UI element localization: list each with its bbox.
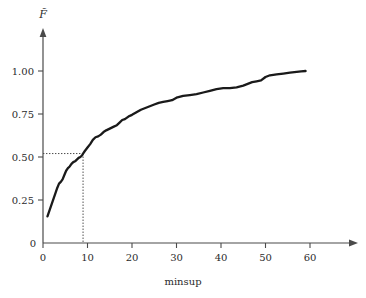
xtick-label-40: 40: [215, 252, 228, 263]
xtick-label-10: 10: [81, 252, 94, 263]
y-axis: [40, 28, 47, 243]
xtick-label-60: 60: [304, 252, 317, 263]
xtick-label-20: 20: [126, 252, 139, 263]
x-axis: [43, 240, 358, 247]
xtick-label-50: 50: [259, 252, 272, 263]
ytick-label-0-50: 0.50: [12, 152, 34, 163]
median-guideline: [43, 154, 83, 243]
cdf-curve: [47, 71, 305, 216]
xtick-label-0: 0: [40, 252, 46, 263]
ytick-label-0-75: 0.75: [12, 109, 34, 120]
xtick-label-30: 30: [170, 252, 183, 263]
y-axis-ticks: [38, 71, 43, 200]
x-axis-ticks: [43, 243, 310, 248]
ytick-label-0: 0: [30, 238, 36, 249]
y-axis-title: F̃: [38, 8, 47, 21]
chart-container: 1.00 0.75 0.50 0.25 0 0 10 20 30 40 50 6…: [0, 0, 366, 298]
cdf-plot: 1.00 0.75 0.50 0.25 0 0 10 20 30 40 50 6…: [0, 0, 366, 298]
ytick-label-1-00: 1.00: [12, 66, 34, 77]
ytick-label-0-25: 0.25: [12, 195, 34, 206]
x-axis-title: minsup: [164, 276, 201, 287]
